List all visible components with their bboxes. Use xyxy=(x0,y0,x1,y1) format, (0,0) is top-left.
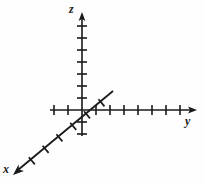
y-axis-group xyxy=(50,105,197,115)
y-axis-label: y xyxy=(185,115,190,127)
x-axis-line xyxy=(18,91,113,170)
x-axis-ticks xyxy=(29,99,105,164)
coordinate-axes-figure: z y x xyxy=(0,0,204,184)
axes-drawing xyxy=(0,0,204,184)
z-axis-label: z xyxy=(69,3,74,15)
x-axis-label: x xyxy=(3,163,9,175)
x-axis-group xyxy=(13,91,113,175)
